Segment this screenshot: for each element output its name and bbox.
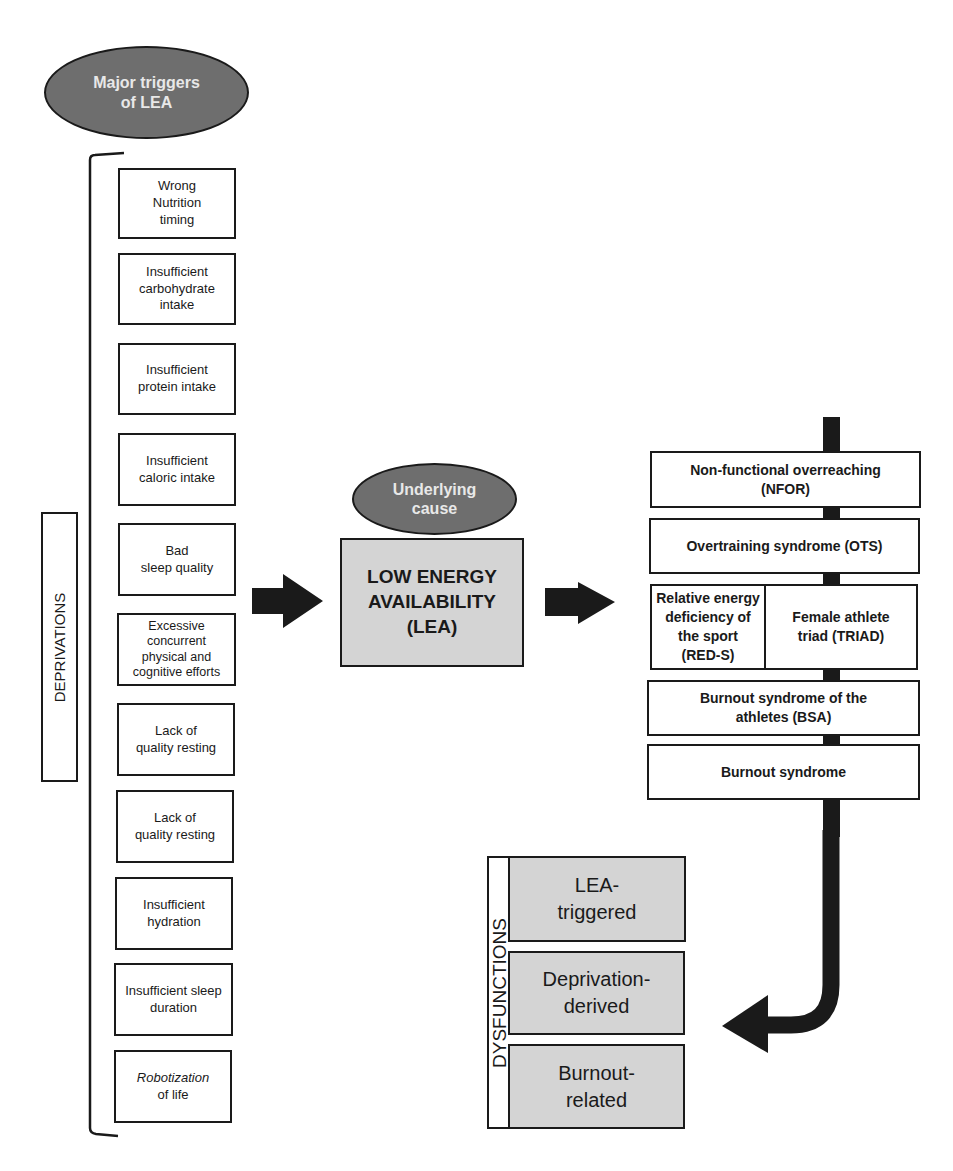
deprivation-quality-resting-2: Lack ofquality resting bbox=[116, 790, 234, 863]
curved-arrow bbox=[765, 830, 831, 1025]
arrow-left-icon bbox=[722, 995, 768, 1053]
triggers-line2: of LEA bbox=[93, 93, 200, 112]
deprivation-robotization-of-life: Robotizationof life bbox=[114, 1050, 232, 1123]
deprivation-caloric-intake: Insufficientcaloric intake bbox=[118, 433, 236, 506]
syndrome-bsa: Burnout syndrome of theathletes (BSA) bbox=[647, 680, 920, 736]
dysfunction-deprivation-derived: Deprivation-derived bbox=[508, 951, 685, 1035]
dysfunction-burnout-related: Burnout-related bbox=[508, 1044, 685, 1129]
syndrome-burnout: Burnout syndrome bbox=[647, 744, 920, 800]
underlying-cause-ellipse: Underlying cause bbox=[352, 463, 517, 535]
arrow-right-icon bbox=[252, 574, 323, 628]
syndrome-ots: Overtraining syndrome (OTS) bbox=[649, 518, 920, 574]
deprivation-wrong-nutrition-timing: WrongNutritiontiming bbox=[118, 168, 236, 239]
low-energy-availability-box: LOW ENERGY AVAILABILITY (LEA) bbox=[340, 538, 524, 667]
syndrome-nfor: Non-functional overreaching(NFOR) bbox=[650, 451, 921, 508]
dysfunction-lea-triggered: LEA-triggered bbox=[508, 856, 686, 942]
syndrome-reds-triad: Relative energydeficiency ofthe sport(RE… bbox=[650, 584, 918, 670]
deprivation-protein-intake: Insufficientprotein intake bbox=[118, 343, 236, 415]
deprivation-concurrent-efforts: Excessiveconcurrentphysical andcognitive… bbox=[117, 613, 236, 686]
deprivation-quality-resting-1: Lack ofquality resting bbox=[117, 703, 235, 776]
deprivations-label: DEPRIVATIONS bbox=[41, 512, 78, 782]
dysfunctions-label: DYSFUNCTIONS bbox=[487, 856, 510, 1129]
deprivation-sleep-duration: Insufficient sleepduration bbox=[114, 963, 233, 1036]
triggers-line1: Major triggers bbox=[93, 73, 200, 92]
deprivation-hydration: Insufficienthydration bbox=[115, 877, 233, 950]
syndrome-reds: Relative energydeficiency ofthe sport(RE… bbox=[652, 586, 766, 668]
deprivation-sleep-quality: Badsleep quality bbox=[118, 523, 236, 596]
deprivation-carbohydrate-intake: Insufficientcarbohydrateintake bbox=[118, 253, 236, 325]
syndrome-triad: Female athletetriad (TRIAD) bbox=[766, 586, 916, 668]
major-triggers-ellipse: Major triggers of LEA bbox=[44, 46, 249, 139]
arrow-right-icon bbox=[545, 582, 615, 624]
